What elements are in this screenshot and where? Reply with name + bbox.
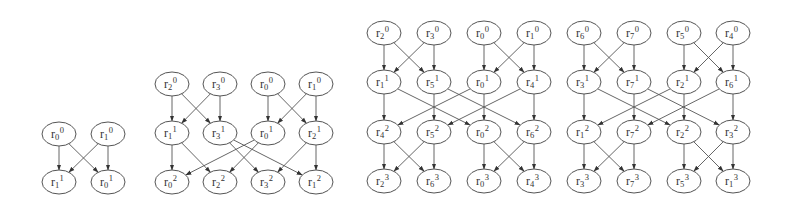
- edge-r1_1-to-r2_2: [182, 143, 211, 172]
- node-r2_2: r22: [667, 120, 701, 144]
- node-r6_1: r61: [716, 70, 750, 94]
- node-r3_2: r32: [251, 170, 285, 194]
- graph-4: r20r30r00r10r11r31r01r21r02r22r32r12: [155, 72, 333, 194]
- node-r2_0: r20: [367, 21, 401, 45]
- node-r5_3: r53: [667, 169, 701, 193]
- node-r3_2: r32: [716, 120, 750, 144]
- edge-r2_1-to-r3_2: [278, 143, 307, 172]
- node-r2_1: r21: [667, 70, 701, 94]
- node-r0_0: r00: [42, 122, 76, 146]
- graph-4-edges: [172, 94, 316, 175]
- node-r0_1: r01: [467, 70, 501, 94]
- node-r7_0: r70: [617, 21, 651, 45]
- graph-8: r20r30r00r10r60r70r50r40r11r51r01r41r31r…: [367, 21, 750, 193]
- node-r1_0: r10: [299, 72, 333, 96]
- edges-layer: [59, 43, 733, 175]
- node-r6_3: r63: [417, 169, 451, 193]
- node-r6_2: r62: [517, 120, 551, 144]
- node-r0_0: r00: [251, 72, 285, 96]
- node-r3_1: r31: [567, 70, 601, 94]
- node-r1_1: r11: [42, 170, 76, 194]
- node-r3_3: r33: [567, 169, 601, 193]
- node-r5_2: r52: [417, 120, 451, 144]
- node-r7_3: r73: [617, 169, 651, 193]
- node-r4_3: r43: [517, 169, 551, 193]
- node-r4_0: r40: [716, 21, 750, 45]
- node-r5_1: r51: [417, 70, 451, 94]
- node-r3_1: r31: [203, 121, 237, 145]
- node-r7_2: r72: [617, 120, 651, 144]
- node-r0_1: r01: [251, 121, 285, 145]
- node-r1_3: r13: [716, 169, 750, 193]
- node-r2_3: r23: [367, 169, 401, 193]
- node-r6_0: r60: [567, 21, 601, 45]
- node-r1_2: r12: [299, 170, 333, 194]
- node-r4_1: r41: [517, 70, 551, 94]
- node-r3_0: r30: [417, 21, 451, 45]
- node-r2_0: r20: [155, 72, 189, 96]
- node-r1_2: r12: [567, 120, 601, 144]
- node-r4_2: r42: [367, 120, 401, 144]
- node-r1_1: r11: [155, 121, 189, 145]
- node-r3_0: r30: [203, 72, 237, 96]
- node-r0_3: r03: [467, 169, 501, 193]
- node-r7_1: r71: [617, 70, 651, 94]
- node-r5_0: r50: [667, 21, 701, 45]
- node-r0_0: r00: [467, 21, 501, 45]
- node-r2_1: r21: [299, 121, 333, 145]
- nodes-layer: r00r10r11r01r20r30r00r10r11r31r01r21r02r…: [42, 21, 750, 194]
- graph-2-edges: [59, 144, 108, 173]
- node-r1_1: r11: [367, 70, 401, 94]
- node-r0_2: r02: [467, 120, 501, 144]
- node-r1_0: r10: [517, 21, 551, 45]
- node-r1_0: r10: [91, 122, 125, 146]
- node-r2_2: r22: [203, 170, 237, 194]
- graph-8-edges: [384, 43, 733, 172]
- node-r0_1: r01: [91, 170, 125, 194]
- butterfly-diagram: r00r10r11r01r20r30r00r10r11r31r01r21r02r…: [0, 0, 786, 209]
- node-r0_2: r02: [155, 170, 189, 194]
